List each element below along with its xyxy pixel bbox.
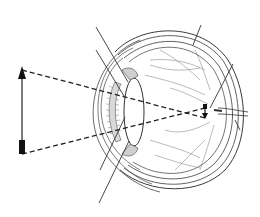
eye-diagram [0, 0, 260, 217]
image-arrow [202, 104, 208, 119]
retinal-vessels [145, 50, 214, 170]
iris-body [109, 82, 121, 142]
eye-diagram-drawing [0, 0, 260, 217]
object-arrow [18, 66, 26, 154]
pointer-upper-1 [96, 27, 128, 82]
arrow-tail-icon [19, 140, 25, 154]
arrowhead-up-icon [18, 66, 26, 79]
lens [124, 78, 144, 146]
